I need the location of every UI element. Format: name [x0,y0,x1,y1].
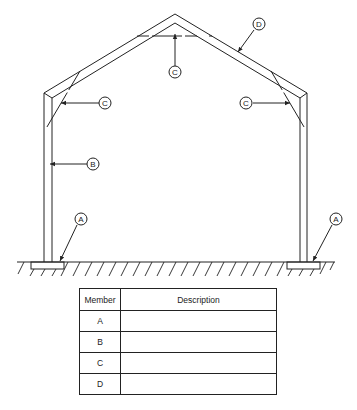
callout-a-left-label: A [78,215,84,224]
right-eave-cap [300,93,307,98]
leader-a-left [60,225,77,261]
right-footing [287,262,320,269]
member-description-table: Member Description A B C D [79,288,277,395]
left-eave-cap [44,93,52,98]
table-row: A [80,311,277,332]
table-header-row: Member Description [80,289,277,311]
rafter-left [44,14,175,98]
rafter-right [175,14,307,98]
left-footing [31,262,64,269]
left-column [44,93,52,262]
description-cell[interactable] [121,374,277,395]
callout-a-right-label: A [333,215,339,224]
member-cell: C [80,353,121,374]
leader-d [238,30,254,52]
callout-c-right-label: C [243,99,249,108]
left-knee-brace [44,71,80,132]
member-cell: B [80,332,121,353]
right-column [300,93,307,262]
description-cell[interactable] [121,311,277,332]
table-row: B [80,332,277,353]
callout-d-label: D [256,20,262,29]
leader-a-right [313,225,332,261]
description-cell[interactable] [121,353,277,374]
right-knee-brace [271,71,307,132]
header-member: Member [80,289,121,311]
callout-c-left-label: C [102,99,108,108]
table-row: C [80,353,277,374]
member-cell: D [80,374,121,395]
callout-b-label: B [90,160,95,169]
header-description: Description [121,289,277,311]
member-cell: A [80,311,121,332]
table-row: D [80,374,277,395]
description-cell[interactable] [121,332,277,353]
callout-c-ridge-label: C [172,68,178,77]
